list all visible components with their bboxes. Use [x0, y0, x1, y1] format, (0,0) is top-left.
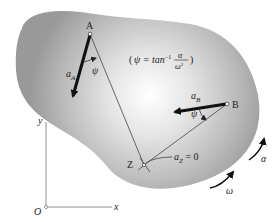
point-Z: [142, 163, 145, 166]
rigid-body: [16, 11, 260, 189]
label-B: B: [232, 99, 239, 110]
origin-point: [44, 205, 47, 208]
label-psi-A: ψ: [92, 65, 99, 76]
label-omega: ω: [226, 185, 233, 196]
svg-text:): ): [190, 54, 193, 66]
label-origin: O: [34, 206, 41, 217]
label-Z: Z: [127, 159, 133, 170]
point-A: [88, 32, 92, 36]
point-B: [225, 102, 229, 106]
label-A: A: [86, 20, 94, 31]
label-alpha: α: [261, 153, 267, 164]
label-x-axis: x: [113, 201, 119, 212]
label-psi-B: ψ: [191, 108, 198, 119]
diagram-canvas: A B Z aA aB ψ ψ aZ = 0 ( ψ = tan−1 α ω2 …: [0, 0, 273, 222]
label-y-axis: y: [37, 115, 43, 126]
